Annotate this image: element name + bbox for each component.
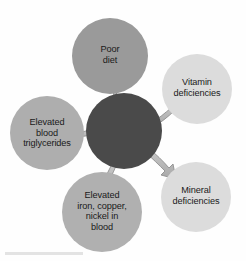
node-circle-elevated-iron-copper-nickel[interactable]: [62, 172, 142, 252]
node-circle-elevated-blood-triglycerides[interactable]: [10, 96, 84, 170]
node-circle-poor-diet[interactable]: [72, 18, 148, 94]
node-circle-mineral-deficiencies[interactable]: [161, 162, 231, 232]
radial-diagram-canvas: Poor diet Vitamin deficiencies Mineral d…: [0, 0, 246, 261]
diagram-graphics: [0, 0, 246, 261]
bottom-rule: [5, 252, 83, 255]
central-hub-circle[interactable]: [86, 93, 162, 169]
node-circle-vitamin-deficiencies[interactable]: [162, 54, 232, 124]
